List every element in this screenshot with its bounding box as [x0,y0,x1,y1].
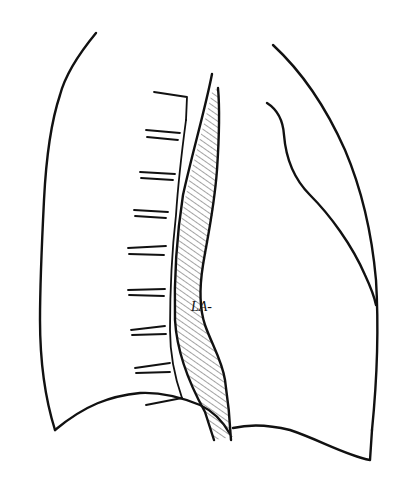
heart-anterior-border [267,103,376,305]
vertebral-ribs [128,92,187,405]
anterior-chest-wall [273,45,377,430]
left-atrium-label: LA- [190,299,212,314]
left-atrium-band [160,80,250,450]
anterior-diaphragm [233,426,372,460]
chest-diagram: LA- [0,0,396,493]
posterior-chest-wall [40,33,96,430]
